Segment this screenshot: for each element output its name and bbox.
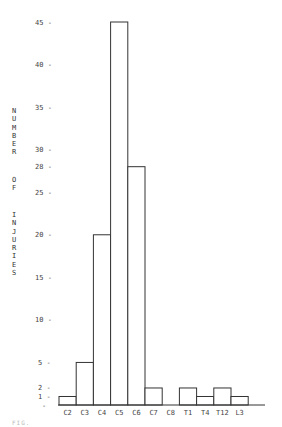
x-tick-label: C3 (81, 409, 89, 417)
y-tick-label: 15 - (35, 274, 52, 282)
bar-c3 (76, 362, 93, 405)
x-axis-labels: C2C3C4C5C6C7C8T1T4T12L3 (63, 409, 243, 417)
x-tick-label: C7 (149, 409, 157, 417)
bar-chart: -1 -2 -5 -10 -15 -20 -25 -28 -30 -35 -40… (0, 0, 282, 427)
x-tick-label: C2 (63, 409, 71, 417)
y-tick-label: 40 - (35, 61, 52, 69)
bar-t4 (197, 396, 214, 405)
y-tick-label: 20 - (35, 231, 52, 239)
bar-c6 (128, 167, 145, 405)
y-tick-label: 30 - (35, 146, 52, 154)
y-tick-label: 25 - (35, 189, 52, 197)
x-tick-label: C8 (167, 409, 175, 417)
bar-c7 (145, 388, 162, 405)
y-tick-label: 2 - (38, 384, 51, 392)
bar-c2 (59, 396, 76, 405)
y-tick-label: 45 - (35, 19, 52, 27)
y-tick-label: 5 - (38, 359, 51, 367)
bar-t1 (179, 388, 196, 405)
y-axis-label-injuries: INJURIES (9, 211, 19, 277)
x-tick-label: L3 (235, 409, 243, 417)
x-tick-label: T4 (201, 409, 209, 417)
bar-l3 (231, 396, 248, 405)
bars (59, 22, 248, 405)
x-tick-label: C4 (98, 409, 106, 417)
y-tick-label: 1 - (38, 393, 51, 401)
bar-t12 (214, 388, 231, 405)
svg-text:-: - (42, 402, 46, 410)
x-tick-label: C6 (132, 409, 140, 417)
y-axis-label-of: OF (9, 176, 19, 193)
x-tick-label: T1 (184, 409, 192, 417)
y-tick-label: 10 - (35, 316, 52, 324)
y-tick-label: 28 - (35, 163, 52, 171)
y-axis-label-number: NUMBER (9, 107, 19, 157)
bar-c5 (111, 22, 128, 405)
bar-c4 (93, 235, 110, 405)
x-tick-label: C5 (115, 409, 123, 417)
figure-caption: FIG. (12, 419, 30, 426)
y-axis-ticks: -1 -2 -5 -10 -15 -20 -25 -28 -30 -35 -40… (35, 19, 52, 410)
x-tick-label: T12 (216, 409, 229, 417)
y-tick-label: 35 - (35, 104, 52, 112)
